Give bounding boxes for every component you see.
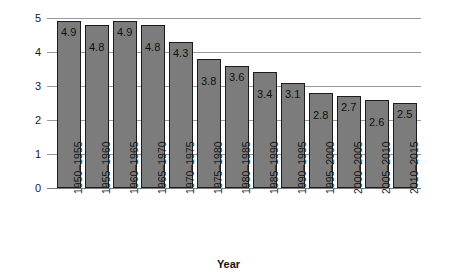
x-tick-label: 1975–1980	[213, 141, 224, 194]
bar-value-label: 4.8	[145, 42, 160, 53]
y-tick-label: 2	[15, 115, 41, 126]
plot-area: 012345 4.94.84.94.84.33.83.63.43.12.82.7…	[57, 18, 421, 188]
gridline-5	[47, 18, 421, 19]
x-tick-label: 1970–1975	[185, 141, 196, 194]
bar-value-label: 4.3	[173, 48, 188, 59]
bar-value-label: 4.8	[89, 42, 104, 53]
x-tick-label: 1955–1960	[101, 141, 112, 194]
y-tick-label: 4	[15, 47, 41, 58]
bar-value-label: 2.7	[341, 102, 356, 113]
x-tick-label: 1995–2000	[325, 141, 336, 194]
bar-value-label: 3.6	[229, 72, 244, 83]
y-tick-label: 1	[15, 149, 41, 160]
bar-value-label: 3.1	[285, 89, 300, 100]
bar-value-label: 4.9	[61, 27, 76, 38]
y-tick-label: 0	[15, 183, 41, 194]
x-tick-label: 1980–1985	[241, 141, 252, 194]
x-axis-title-text: Year	[217, 258, 240, 270]
bar-value-label: 2.8	[313, 110, 328, 121]
x-tick-label: 1950–1955	[73, 141, 84, 194]
y-tick-label: 5	[15, 13, 41, 24]
fertility-rate-bar-chart: Fertility rate 012345 4.94.84.94.84.33.8…	[0, 0, 449, 280]
bar-value-label: 2.6	[369, 117, 384, 128]
bar-value-label: 3.4	[257, 89, 272, 100]
x-tick-label: 1960–1965	[129, 141, 140, 194]
x-tick-label: 2005–2010	[381, 141, 392, 194]
bar-value-label: 4.9	[117, 27, 132, 38]
y-tick-label: 3	[15, 81, 41, 92]
bar-value-label: 3.8	[201, 76, 216, 87]
bar-value-label: 2.5	[397, 109, 412, 120]
x-tick-label: 2000–2005	[353, 141, 364, 194]
x-tick-label: 1985–1990	[269, 141, 280, 194]
x-tick-label: 2010–2015	[409, 141, 420, 194]
x-tick-label: 1965–1970	[157, 141, 168, 194]
x-tick-label: 1990–1995	[297, 141, 308, 194]
x-axis-title: Year	[0, 258, 449, 270]
